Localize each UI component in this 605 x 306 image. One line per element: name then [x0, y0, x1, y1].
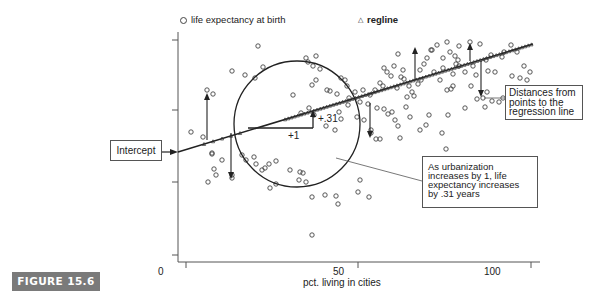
rise-label: +.31: [318, 113, 338, 124]
data-point: [297, 178, 301, 182]
data-point: [408, 115, 412, 119]
data-point: [493, 70, 497, 74]
data-point: [382, 107, 386, 111]
data-point: [445, 40, 449, 44]
data-point: [422, 62, 426, 66]
data-point: [446, 113, 450, 117]
data-point: [389, 74, 393, 78]
data-point: [418, 68, 422, 72]
data-point: [440, 131, 444, 135]
data-point: [323, 193, 327, 197]
data-point: [261, 65, 265, 69]
distances-callout: Distances from points to the regression …: [505, 85, 583, 120]
data-point: [416, 82, 420, 86]
circle-marker-icon: [180, 17, 187, 24]
data-point: [463, 70, 467, 74]
legend-regline: △regline: [358, 14, 398, 25]
slope-note-line-4: by .31 years: [428, 189, 532, 198]
data-point: [474, 73, 478, 77]
data-point: [478, 42, 482, 46]
data-point: [358, 100, 362, 104]
x-tick-100: 100: [484, 266, 501, 277]
data-point: [311, 64, 315, 68]
data-point: [214, 173, 218, 177]
intercept-label: Intercept: [117, 145, 156, 156]
data-point: [267, 162, 271, 166]
x-tick-0: 0: [158, 266, 164, 277]
data-point: [381, 84, 385, 88]
data-point: [401, 68, 405, 72]
data-point: [243, 73, 247, 77]
intercept-callout: Intercept: [110, 140, 162, 161]
data-point: [463, 106, 467, 110]
data-point: [314, 54, 318, 58]
data-point: [382, 66, 386, 70]
data-point: [483, 105, 487, 109]
data-point: [427, 113, 431, 117]
triangle-marker-icon: △: [358, 16, 363, 24]
x-tick-50: 50: [333, 266, 344, 277]
y-axis: [172, 32, 178, 262]
data-point: [412, 94, 416, 98]
data-point: [346, 103, 350, 107]
data-point: [453, 54, 457, 58]
data-point: [318, 67, 322, 71]
data-point: [335, 92, 339, 96]
slope-note-callout: As urbanization increases by 1, life exp…: [422, 156, 538, 208]
data-point: [510, 74, 514, 78]
data-point: [310, 195, 314, 199]
data-point: [386, 112, 390, 116]
data-point: [205, 88, 209, 92]
data-point: [220, 158, 224, 162]
data-point: [509, 43, 513, 47]
data-point: [396, 124, 400, 128]
data-point: [438, 78, 442, 82]
legend-label-life-expectancy: life expectancy at birth: [191, 14, 286, 25]
data-point: [448, 50, 452, 54]
data-point: [367, 195, 371, 199]
data-point: [304, 180, 308, 184]
data-point: [457, 44, 461, 48]
data-point: [405, 95, 409, 99]
x-axis-title: pct. living in cities: [303, 277, 381, 288]
data-point: [475, 97, 479, 101]
scatter-plot: [0, 0, 605, 306]
data-point: [310, 83, 314, 87]
data-point: [396, 52, 400, 56]
data-point: [353, 90, 357, 94]
data-point: [451, 72, 455, 76]
data-point: [404, 105, 408, 109]
slope-highlight-circle: [234, 61, 360, 187]
data-point: [522, 64, 526, 68]
data-point: [444, 147, 448, 151]
distances-line-3: regression line: [509, 107, 579, 117]
data-point: [361, 88, 365, 92]
data-point: [268, 186, 272, 190]
data-point: [256, 44, 260, 48]
data-point: [324, 124, 328, 128]
data-point: [485, 90, 489, 94]
data-point: [528, 70, 532, 74]
data-point: [310, 233, 314, 237]
data-point: [393, 118, 397, 122]
data-point: [418, 128, 422, 132]
data-point: [385, 70, 389, 74]
data-point: [375, 106, 379, 110]
run-label: +1: [288, 130, 299, 141]
data-point: [518, 76, 522, 80]
data-point: [355, 115, 359, 119]
data-point: [525, 78, 529, 82]
data-point: [441, 56, 445, 60]
data-point: [486, 69, 490, 73]
data-point: [407, 84, 411, 88]
data-point: [425, 56, 429, 60]
data-point: [435, 43, 439, 47]
data-point: [398, 136, 402, 140]
data-point: [358, 178, 362, 182]
data-point: [356, 190, 360, 194]
data-point: [274, 159, 278, 163]
data-point: [490, 99, 494, 103]
data-point: [334, 194, 338, 198]
data-point: [189, 130, 193, 134]
data-point: [201, 135, 205, 139]
